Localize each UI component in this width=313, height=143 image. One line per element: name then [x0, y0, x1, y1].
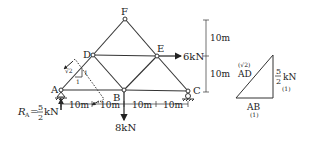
member-bc: [124, 90, 188, 91]
force-triangle-vertical-unit: kN: [283, 72, 296, 82]
force-triangle-vertical-den: 2: [276, 77, 281, 86]
node-label-a: A: [50, 84, 59, 95]
node-label-e: E: [157, 43, 164, 54]
member-df: [93, 19, 125, 55]
dim-h-3: 10m: [132, 100, 152, 110]
dim-h-2: 10m: [100, 100, 120, 110]
truss-members: [61, 19, 188, 91]
node-c: [186, 89, 190, 93]
reaction-numerator: 5: [38, 103, 43, 112]
dim-v-2: 10m: [210, 69, 230, 79]
node-label-f: F: [121, 6, 128, 17]
slope-horizontal-label: 1: [76, 78, 80, 85]
node-label-d: D: [83, 49, 91, 60]
dim-h-4: 10m: [163, 100, 183, 110]
force-triangle-hyp-label: AD: [237, 69, 252, 79]
vertical-dimensions: [203, 20, 209, 92]
load-label-b: 8kN: [115, 122, 136, 133]
force-triangle-hyp-ratio: (√2): [238, 61, 250, 68]
member-fe: [125, 19, 157, 56]
slope-vertical-label: 1: [84, 69, 88, 76]
truss-diagram: √2 1 1 F D E A B C 6kN 8kN R: [0, 0, 313, 143]
force-triangle-vertical-ratio: (1): [282, 85, 291, 92]
node-e: [155, 54, 159, 58]
node-d: [91, 53, 95, 57]
cut-arrow-right: [92, 101, 99, 105]
force-triangle-vertical-num: 5: [276, 67, 281, 76]
reaction-unit: kN: [44, 106, 59, 117]
force-triangle-base-ratio: (1): [250, 111, 259, 118]
dim-v-1: 10m: [210, 33, 230, 43]
dim-h-1: 10m: [69, 100, 89, 110]
member-db: [93, 55, 124, 90]
node-f: [123, 17, 127, 21]
member-de: [93, 55, 157, 56]
member-be: [124, 56, 157, 90]
slope-hyp-label: √2: [65, 67, 73, 74]
reaction-label-a: R A = 5 2 kN: [17, 103, 59, 122]
node-b: [122, 88, 126, 92]
node-label-c: C: [193, 85, 201, 96]
reaction-denominator: 2: [38, 113, 43, 122]
load-label-e: 6kN: [183, 51, 204, 62]
diagram-canvas: √2 1 1 F D E A B C 6kN 8kN R: [0, 0, 313, 143]
